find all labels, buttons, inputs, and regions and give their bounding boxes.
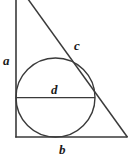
label-side-b: b — [59, 143, 66, 156]
triangle-side-c-line — [27, 0, 127, 137]
label-side-a: a — [3, 54, 10, 67]
label-diameter-d: d — [51, 83, 58, 96]
figure-svg — [0, 0, 131, 163]
geometry-figure: a b c d — [0, 0, 131, 163]
label-side-c: c — [74, 39, 80, 52]
